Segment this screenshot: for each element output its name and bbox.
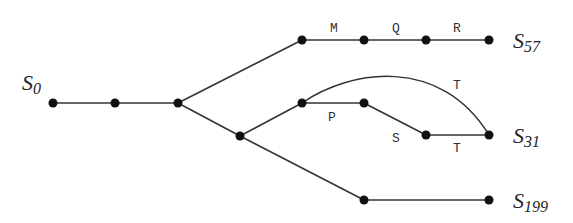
edge-label-q: Q (392, 21, 400, 36)
state-label-s0: S0 (22, 70, 41, 97)
state-subscript: 31 (523, 133, 540, 150)
edge-label-t-arc: T (453, 78, 461, 93)
node (360, 196, 369, 205)
state-labels: S0 S57 S31 S199 (22, 28, 548, 215)
edge-n7-bottom (240, 136, 364, 200)
state-label-s31: S31 (513, 123, 540, 150)
edge-n2-top-branch (178, 40, 302, 103)
state-label-s57: S57 (513, 28, 541, 55)
edge-label-t-lower: T (453, 141, 461, 156)
node-s0 (49, 99, 58, 108)
state-subscript: 199 (524, 198, 548, 215)
node (422, 131, 431, 140)
node (111, 99, 120, 108)
state-base: S (22, 70, 33, 95)
node-s31 (485, 131, 494, 140)
state-tree-diagram: M Q R T P S T S0 S57 S31 S199 (0, 0, 573, 223)
edges (53, 40, 489, 200)
node (422, 36, 431, 45)
node-branch-point (174, 99, 183, 108)
edge-label-s: S (392, 131, 400, 146)
edge-label-r: R (453, 21, 461, 36)
node (298, 36, 307, 45)
edge-n7-n8 (240, 103, 302, 136)
node-s199 (485, 196, 494, 205)
node-branch-point (236, 132, 245, 141)
edge-label-m: M (330, 21, 338, 36)
edge-t-arc (302, 76, 489, 135)
state-subscript: 57 (524, 38, 541, 55)
node (298, 99, 307, 108)
node (360, 36, 369, 45)
state-base: S (513, 188, 524, 213)
state-label-s199: S199 (513, 188, 548, 215)
edge-label-p: P (328, 110, 336, 125)
state-subscript: 0 (33, 80, 41, 97)
state-base: S (513, 28, 524, 53)
node (360, 99, 369, 108)
node-s57 (485, 36, 494, 45)
edge-n2-lower-branch (178, 103, 240, 136)
state-base: S (513, 123, 524, 148)
